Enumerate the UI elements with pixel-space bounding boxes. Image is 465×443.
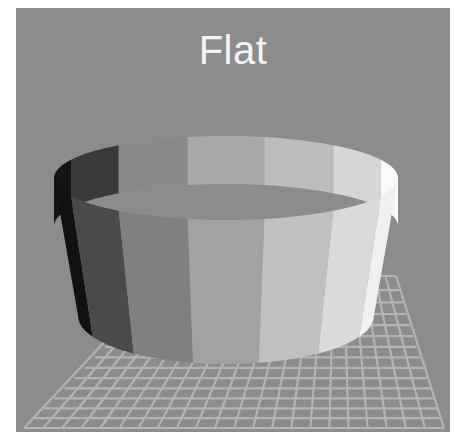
render-panel: Flat <box>16 8 450 432</box>
cylinder-outer-wall <box>54 178 398 364</box>
flat-shaded-cylinder-render <box>16 8 450 432</box>
